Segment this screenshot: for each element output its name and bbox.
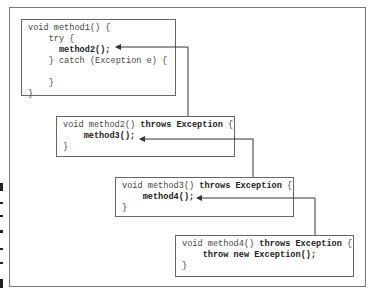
call-arrows: [0, 0, 373, 292]
arrow-method4-to-method3: [197, 198, 315, 235]
arrow-method2-to-method1: [116, 47, 188, 116]
arrow-method3-to-method2: [140, 139, 253, 177]
